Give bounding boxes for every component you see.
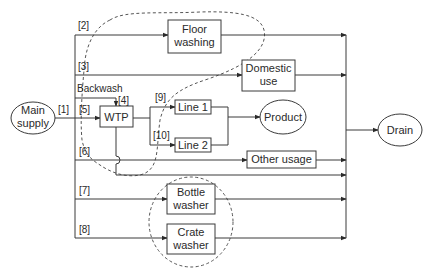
floor-washing-label-2: washing [173,36,214,48]
drain-node: Drain [378,114,422,146]
wtp-label: WTP [104,111,128,123]
lines-merge [211,107,228,145]
other-usage-node: Other usage [247,151,316,168]
line-2-label: Line 2 [178,139,208,151]
crate-washer-node: Crate washer [167,224,215,254]
wtp-node: WTP [100,106,133,127]
line-1-label: Line 1 [178,101,208,113]
main-supply-label-1: Main [21,104,45,116]
flow-label-8: [8] [79,224,90,235]
bottle-washer-label-1: Bottle [177,186,205,198]
flow-label-4: [4] [118,95,129,106]
flow-label-9: [9] [155,92,166,103]
water-flow-diagram: Main supply [1] [2] Floor washing [3] Do… [0,0,433,278]
main-supply-label-2: supply [17,117,49,129]
line-2-node: Line 2 [175,138,211,152]
flow-label-1: [1] [58,104,69,115]
drain-label: Drain [387,124,413,136]
flow-label-10: [10] [153,130,170,141]
bottle-washer-node: Bottle washer [167,184,215,214]
floor-washing-label-1: Floor [182,23,207,35]
crate-washer-label-1: Crate [178,226,205,238]
main-supply-node: Main supply [11,102,55,134]
line-1-node: Line 1 [175,100,211,114]
backwash-label: Backwash [77,83,123,94]
domestic-use-label-2: use [260,75,278,87]
product-node: Product [260,100,306,134]
product-label: Product [264,111,302,123]
flow-label-6: [6] [79,146,90,157]
flow-label-2: [2] [78,20,89,31]
domestic-use-label-1: Domestic [246,62,292,74]
bottle-washer-label-2: washer [172,199,209,211]
flow-label-3: [3] [78,61,89,72]
crate-washer-label-2: washer [172,239,209,251]
flow-label-5: [5] [79,104,90,115]
flow-label-7: [7] [79,185,90,196]
other-usage-label: Other usage [251,153,312,165]
domestic-use-node: Domestic use [242,60,295,91]
floor-washing-node: Floor washing [168,20,221,53]
